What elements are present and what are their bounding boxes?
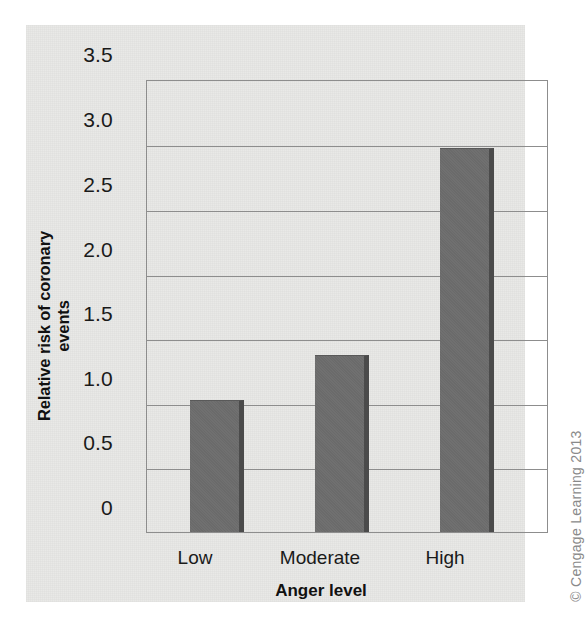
- y-tick-2-5: 2.5: [83, 173, 113, 197]
- bar-moderate[interactable]: [315, 355, 369, 532]
- y-tick-1-0: 1.0: [83, 367, 113, 391]
- y-tick-3-0: 3.0: [83, 108, 113, 132]
- y-axis-title: Relative risk of coronary events: [35, 206, 73, 446]
- x-tick-high: High: [370, 547, 520, 569]
- y-tick-2-0: 2.0: [83, 238, 113, 262]
- y-tick-0: 0: [101, 496, 113, 520]
- bar-low[interactable]: [190, 400, 244, 532]
- bar-high[interactable]: [440, 148, 494, 532]
- y-tick-1-5: 1.5: [83, 302, 113, 326]
- plot-area: [146, 80, 548, 533]
- y-tick-3-5: 3.5: [83, 43, 113, 67]
- copyright-notice: © Cengage Learning 2013: [568, 421, 584, 611]
- gridline-3-0: [147, 146, 547, 147]
- figure-panel: 3.5 3.0 2.5 2.0 1.5 1.0 0.5 0 Relative r…: [26, 25, 525, 602]
- y-tick-0-5: 0.5: [83, 431, 113, 455]
- x-axis-title: Anger level: [120, 581, 522, 601]
